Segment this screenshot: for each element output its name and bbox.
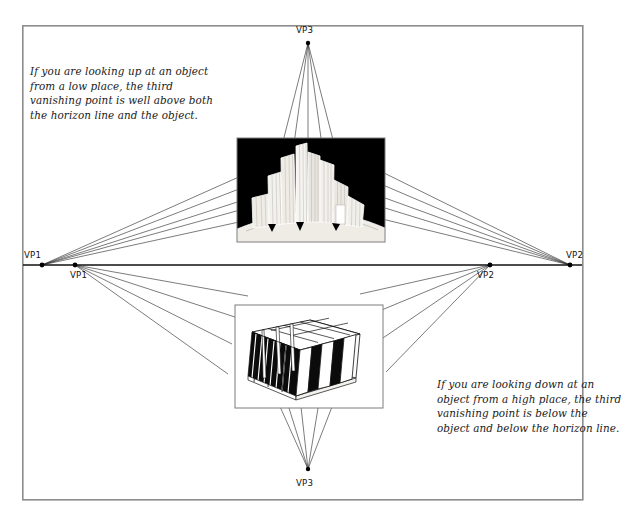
vp1-lower-dot — [73, 263, 78, 268]
vp3-lower-dot — [306, 467, 310, 471]
caption-looking-down: If you are looking down at an object fro… — [437, 377, 622, 435]
vp-label-vp3-lower: VP3 — [296, 478, 313, 488]
vp3-upper-dot — [306, 41, 310, 45]
vp-label-vp1-upper: VP1 — [24, 250, 41, 260]
vp-label-vp2-upper: VP2 — [566, 250, 583, 260]
vp-label-vp1-lower: VP1 — [70, 270, 87, 280]
blocks-birds-eye-illustration — [235, 305, 383, 408]
vp2-lower-dot — [488, 263, 493, 268]
vp-label-vp2-lower: VP2 — [477, 270, 494, 280]
vp-label-vp3-upper: VP3 — [296, 25, 313, 35]
caption-looking-up: If you are looking up at an object from … — [30, 64, 220, 122]
vp1-upper-dot — [40, 263, 45, 268]
skyscrapers-worms-eye-illustration — [237, 138, 385, 242]
vp2-upper-dot — [568, 263, 573, 268]
